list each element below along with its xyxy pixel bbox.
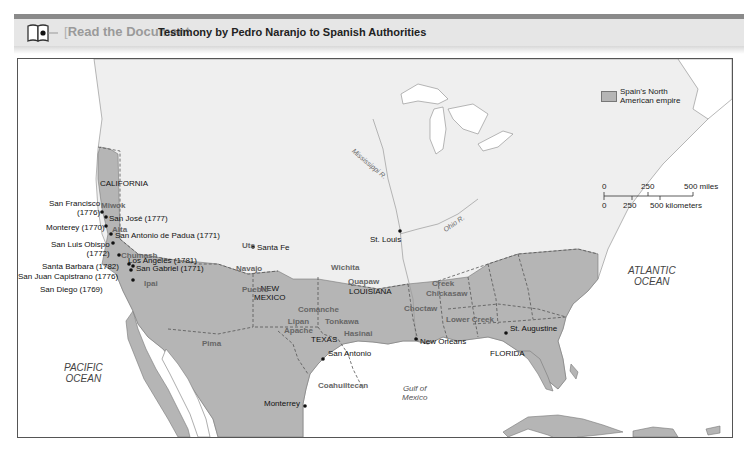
map: Spain's NorthAmerican empire 0 250 500 m… (17, 58, 733, 438)
label-san-antonio: San Antonio (328, 349, 371, 358)
label-san-luis-obispo: San Luis Obispo(1772) (51, 240, 110, 258)
dot-san-diego (131, 278, 135, 282)
label-navajo: Navajo (236, 264, 262, 273)
scale-miles-250: 250 (641, 182, 654, 191)
dot-san-luis-obispo (111, 241, 115, 245)
label-pueblo: Pueblo (242, 285, 269, 294)
scale-km-0: 0 (602, 201, 606, 210)
read-document-header: [Read the Document Testimony by Pedro Na… (14, 19, 744, 46)
scale-miles-0: 0 (602, 182, 606, 191)
legend-empire-label: Spain's NorthAmerican empire (620, 87, 680, 105)
label-louisiana: LOUISIANA (349, 287, 392, 296)
label-st-louis: St. Louis (370, 235, 401, 244)
dot-monterrey-mx (303, 404, 307, 408)
label-miwok: Miwok (101, 201, 125, 210)
dot-san-antonio (321, 357, 325, 361)
label-lower-creek: Lower Creek (446, 315, 494, 324)
legend-empire-swatch (601, 91, 617, 102)
dot-st-augustine (504, 331, 508, 335)
label-comanche: Comanche (298, 305, 339, 314)
label-new-orleans: New Orleans (420, 337, 466, 346)
island-puerto-rico (706, 426, 720, 435)
label-wichita: Wichita (331, 263, 359, 272)
label-california: CALIFORNIA (100, 179, 148, 188)
scale-miles-500: 500 miles (684, 182, 718, 191)
book-icon (26, 23, 58, 43)
island-bahamas (570, 364, 578, 379)
label-ipai: Ipai (144, 279, 158, 288)
label-lipan-apache: LipanApache (284, 317, 313, 335)
label-creek: Creek (432, 279, 454, 288)
label-atlantic-ocean: ATLANTICOCEAN (628, 265, 676, 287)
dot-san-juan-capistrano (129, 268, 133, 272)
header-shadow (14, 46, 744, 54)
label-gulf-of-mexico: Gulf ofMexico (402, 384, 427, 402)
document-title-link[interactable]: Testimony by Pedro Naranjo to Spanish Au… (158, 26, 426, 38)
scale-km-250: 250 (623, 201, 636, 210)
label-coahuiltecan: Coahuiltecan (318, 381, 368, 390)
label-st-augustine: St. Augustine (510, 324, 557, 333)
label-monterrey-mx: Monterrey (264, 399, 300, 408)
dot-st-louis (398, 229, 402, 233)
label-quapaw: Quapaw (348, 277, 379, 286)
label-san-juan-capistrano: San Juan Capistrano (1776) (18, 272, 118, 281)
dot-san-jose (104, 215, 108, 219)
label-san-antonio-padua: San Antonio de Padua (1771) (115, 231, 220, 240)
island-hispaniola (633, 427, 678, 437)
label-san-gabriel: San Gabriel (1771) (136, 264, 204, 273)
dot-san-francisco (100, 210, 104, 214)
dot-new-orleans (414, 337, 418, 341)
label-choctaw: Choctaw (404, 304, 437, 313)
label-san-jose: San José (1777) (109, 214, 168, 223)
scale-km-500: 500 kilometers (650, 201, 702, 210)
label-ute: Ute (242, 241, 255, 250)
label-florida: FLORIDA (490, 349, 525, 358)
label-santa-fe: Santa Fe (257, 243, 289, 252)
label-monterey-ca: Monterey (1770) (46, 223, 105, 232)
label-san-diego: San Diego (1769) (40, 285, 103, 294)
label-san-francisco: San Francisco(1776) (47, 199, 100, 217)
label-texas: TEXAS (311, 335, 337, 344)
label-pacific-ocean: PACIFICOCEAN (64, 362, 103, 384)
label-hasinai: Hasinai (344, 329, 372, 338)
island-cuba (503, 415, 623, 437)
label-santa-barbara: Santa Barbara (1782) (42, 262, 119, 271)
map-canvas (18, 59, 732, 437)
label-chickasaw: Chickasaw (426, 289, 467, 298)
label-pima: Pima (202, 339, 221, 348)
label-tonkawa: Tonkawa (325, 317, 359, 326)
